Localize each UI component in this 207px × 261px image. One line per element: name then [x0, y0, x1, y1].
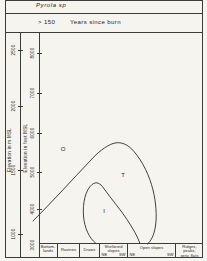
category-line2: slopes: [107, 248, 119, 253]
category-bottomlands: Bottom- lands: [39, 243, 57, 258]
category-label: Ravines: [58, 248, 79, 253]
aspect-ne-label: NE: [102, 253, 108, 257]
category-label: Ridges, peaks, xeric flats: [176, 245, 203, 259]
feet-tick-7000: 7000: [29, 81, 37, 105]
aspect-ne-label: NE: [130, 253, 136, 257]
category-label: Draws: [80, 248, 99, 253]
category-line2: xeric flats: [181, 253, 199, 258]
category-open-slopes: Open slopes NE SW: [127, 243, 175, 258]
aspect-sw-label: SW: [167, 253, 173, 257]
region-label-O: O: [58, 146, 68, 152]
meters-tick-1500: 1500: [10, 158, 18, 182]
category-draws: Draws: [79, 243, 99, 258]
category-line1: Draws: [84, 247, 96, 252]
category-sheltered-slopes: Sheltered slopes NE SW: [99, 243, 127, 258]
meters-tick-2000: 2000: [10, 94, 18, 118]
chart-title: Pyrola sp: [36, 2, 66, 8]
years-since-burn-label: Years since burn: [70, 19, 121, 25]
category-line1: Ridges, peaks,: [182, 244, 196, 254]
years-threshold: > 150: [38, 19, 55, 25]
category-ravines: Ravines: [57, 243, 79, 258]
feet-tick-6000: 6000: [29, 121, 37, 145]
category-line2: lands: [43, 248, 53, 253]
feet-tick-8000: 8000: [29, 41, 37, 65]
meters-axis-line: [20, 32, 21, 258]
meters-tickmark: [18, 234, 23, 235]
feet-tick-5000: 5000: [29, 160, 37, 184]
meters-tickmark: [18, 50, 23, 51]
feet-axis-line: [39, 32, 40, 258]
meters-tick-1000: 1000: [10, 222, 18, 246]
category-ridges-peaks-xeric-flats: Ridges, peaks, xeric flats: [175, 243, 203, 258]
feet-tickmark: [37, 172, 42, 173]
feet-tickmark: [37, 53, 42, 54]
meters-tickmark: [18, 106, 23, 107]
region-label-I: I: [99, 208, 109, 214]
feet-tick-3000: 3000: [29, 233, 37, 257]
subtitle-separator: [5, 32, 203, 33]
feet-tickmark: [37, 133, 42, 134]
category-label: Bottom- lands: [39, 245, 57, 254]
meters-tick-2500: 2500: [10, 38, 18, 62]
category-label: Open slopes: [128, 246, 175, 251]
region-label-T: T: [118, 172, 128, 178]
category-line1: Open slopes: [140, 245, 164, 250]
title-separator: [5, 13, 203, 14]
feet-tickmark: [37, 93, 42, 94]
feet-tickmark: [37, 209, 42, 210]
category-line1: Ravines: [61, 247, 76, 252]
feet-tick-4000: 4000: [29, 197, 37, 221]
figure-canvas: Pyrola sp > 150 Years since burn Elevati…: [0, 0, 207, 261]
aspect-sw-label: SW: [119, 253, 125, 257]
